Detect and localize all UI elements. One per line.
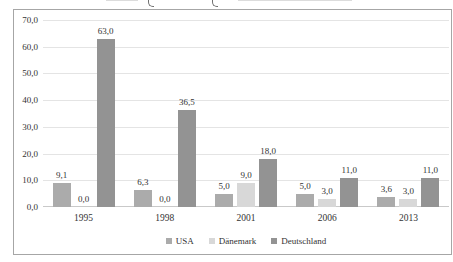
y-tick-label-60,0: 60,0 xyxy=(22,42,38,52)
legend: USADänemarkDeutschland xyxy=(43,236,449,246)
data-label-deutschland-1995: 63,0 xyxy=(98,26,114,36)
data-label-deutschland-2013: 11,0 xyxy=(423,165,438,175)
cropped-title-fragment xyxy=(0,0,453,8)
bar-slot-deutschland-2001: 18,0 xyxy=(259,20,277,207)
bar-slot-usa-2013: 3,6 xyxy=(377,20,395,207)
bar-slot-usa-2001: 5,0 xyxy=(215,20,233,207)
legend-swatch-usa xyxy=(166,238,172,244)
bar-groups: 9,10,063,019956,30,036,519985,09,018,020… xyxy=(43,20,449,207)
data-label-dänemark-2001: 9,0 xyxy=(240,170,251,180)
category-label-2013: 2013 xyxy=(399,213,418,223)
cropped-title-descender xyxy=(212,0,218,7)
bar-slot-deutschland-1998: 36,5 xyxy=(178,20,196,207)
bar-usa-1995 xyxy=(53,183,71,207)
y-tick-label-20,0: 20,0 xyxy=(22,149,38,159)
y-tick-label-50,0: 50,0 xyxy=(22,68,38,78)
data-label-usa-2006: 5,0 xyxy=(300,181,311,191)
cropped-title-mark xyxy=(106,0,138,1)
cropped-title-descender xyxy=(148,0,154,7)
bar-dänemark-2013 xyxy=(399,199,417,207)
bar-dänemark-2006 xyxy=(318,199,336,207)
legend-item-deutschland: Deutschland xyxy=(271,236,326,246)
data-label-usa-2013: 3,6 xyxy=(381,184,392,194)
chart-frame: 0,010,020,030,040,050,060,070,0 9,10,063… xyxy=(13,9,452,255)
bar-slot-usa-1998: 6,3 xyxy=(134,20,152,207)
plot-area: 9,10,063,019956,30,036,519985,09,018,020… xyxy=(43,20,449,207)
bar-slot-dänemark-2001: 9,0 xyxy=(237,20,255,207)
legend-item-usa: USA xyxy=(166,236,194,246)
bar-deutschland-1995 xyxy=(97,39,115,207)
bar-deutschland-2001 xyxy=(259,159,277,207)
y-axis: 0,010,020,030,040,050,060,070,0 xyxy=(14,20,40,207)
bar-group-2001: 5,09,018,02001 xyxy=(205,20,286,207)
legend-item-dänemark: Dänemark xyxy=(209,236,256,246)
data-label-deutschland-2001: 18,0 xyxy=(260,146,276,156)
cropped-title-mark xyxy=(238,0,352,1)
data-label-dänemark-1995: 0,0 xyxy=(78,194,89,204)
legend-swatch-deutschland xyxy=(271,238,277,244)
bar-slot-dänemark-1995: 0,0 xyxy=(75,20,93,207)
bar-deutschland-2013 xyxy=(421,178,439,207)
bar-usa-1998 xyxy=(134,190,152,207)
bar-group-2013: 3,63,011,02013 xyxy=(368,20,449,207)
y-tick-label-30,0: 30,0 xyxy=(22,122,38,132)
bar-slot-deutschland-1995: 63,0 xyxy=(97,20,115,207)
data-label-usa-1998: 6,3 xyxy=(137,177,148,187)
bar-slot-deutschland-2013: 11,0 xyxy=(421,20,439,207)
bar-deutschland-1998 xyxy=(178,110,196,208)
y-tick-label-10,0: 10,0 xyxy=(22,175,38,185)
category-label-1995: 1995 xyxy=(74,213,93,223)
data-label-dänemark-2006: 3,0 xyxy=(322,186,333,196)
bar-usa-2001 xyxy=(215,194,233,207)
bar-slot-dänemark-2013: 3,0 xyxy=(399,20,417,207)
bar-slot-usa-2006: 5,0 xyxy=(296,20,314,207)
page: { "chart_data": { "type": "bar", "catego… xyxy=(0,0,453,262)
bar-dänemark-2001 xyxy=(237,183,255,207)
category-label-1998: 1998 xyxy=(155,213,174,223)
category-label-2001: 2001 xyxy=(237,213,256,223)
y-tick-label-40,0: 40,0 xyxy=(22,95,38,105)
data-label-deutschland-1998: 36,5 xyxy=(179,97,195,107)
data-label-usa-1995: 9,1 xyxy=(56,170,67,180)
bar-slot-dänemark-1998: 0,0 xyxy=(156,20,174,207)
y-tick-label-0,0: 0,0 xyxy=(27,202,38,212)
bar-group-2006: 5,03,011,02006 xyxy=(287,20,368,207)
bar-deutschland-2006 xyxy=(340,178,358,207)
y-tick-label-70,0: 70,0 xyxy=(22,15,38,25)
bar-group-1998: 6,30,036,51998 xyxy=(124,20,205,207)
bar-usa-2013 xyxy=(377,197,395,207)
category-label-2006: 2006 xyxy=(318,213,337,223)
bar-slot-dänemark-2006: 3,0 xyxy=(318,20,336,207)
bar-slot-usa-1995: 9,1 xyxy=(53,20,71,207)
data-label-usa-2001: 5,0 xyxy=(218,181,229,191)
data-label-dänemark-2013: 3,0 xyxy=(403,186,414,196)
data-label-deutschland-2006: 11,0 xyxy=(341,165,356,175)
data-label-dänemark-1998: 0,0 xyxy=(159,194,170,204)
legend-swatch-dänemark xyxy=(209,238,215,244)
legend-label-dänemark: Dänemark xyxy=(219,236,256,246)
legend-label-deutschland: Deutschland xyxy=(281,236,326,246)
bar-group-1995: 9,10,063,01995 xyxy=(43,20,124,207)
legend-label-usa: USA xyxy=(176,236,194,246)
bar-usa-2006 xyxy=(296,194,314,207)
bar-slot-deutschland-2006: 11,0 xyxy=(340,20,358,207)
